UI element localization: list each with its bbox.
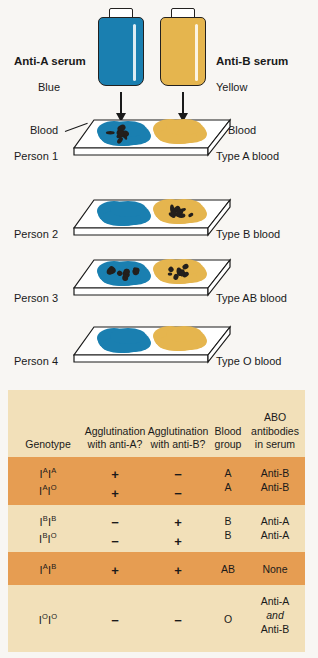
person-label: Person 2	[14, 228, 58, 240]
anti-a-serum-color-label: Blue	[38, 81, 60, 93]
blood-callout-left: Blood	[30, 124, 58, 136]
cell-abo-antibodies: Anti-BAnti-B	[246, 466, 304, 494]
anti-b-serum-label: Anti-B serum	[216, 55, 288, 68]
bottle-highlight	[133, 24, 136, 81]
anti-b-blood-drop	[153, 119, 207, 144]
cell-agglutination-anti-a: +	[84, 562, 146, 581]
blood-test-slide	[72, 325, 232, 369]
cell-blood-group: AA	[208, 466, 248, 494]
blood-test-slide	[72, 258, 232, 302]
anti-a-blood-drop	[97, 261, 151, 286]
cell-genotype: IBIBIBIO	[12, 514, 84, 547]
anti-b-serum-bottle-icon	[160, 8, 206, 86]
cell-agglutination-anti-b: −−	[146, 466, 210, 504]
blood-type-label: Type B blood	[216, 228, 280, 240]
cell-abo-antibodies: Anti-AAnti-A	[246, 514, 304, 542]
cell-blood-group: AB	[208, 562, 248, 576]
anti-a-serum-bottle-icon	[98, 8, 144, 86]
table-row: IOIO−−OAnti-AandAnti-B	[8, 586, 305, 652]
cell-genotype: IAIB	[12, 562, 84, 579]
anti-b-serum-color-label: Yellow	[216, 81, 247, 93]
blood-test-slide	[72, 198, 232, 242]
blood-typing-figure: Anti-A serum Blue Anti-B serum Yellow Bl…	[0, 0, 318, 658]
header-agglutination-anti-b: Agglutinationwith anti-B?	[146, 425, 210, 452]
cell-abo-antibodies: None	[246, 562, 304, 576]
blood-type-label: Type A blood	[216, 150, 279, 162]
blood-type-label: Type AB blood	[216, 292, 287, 304]
cell-genotype: IOIO	[12, 612, 84, 629]
cell-agglutination-anti-b: +	[146, 562, 210, 581]
cell-agglutination-anti-b: ++	[146, 514, 210, 552]
header-blood-group: Bloodgroup	[208, 425, 248, 452]
person-label: Person 3	[14, 292, 58, 304]
abo-genotype-table: Genotype Agglutinationwith anti-A? Agglu…	[8, 390, 305, 652]
anti-a-blood-drop	[97, 201, 151, 226]
anti-a-blood-drop	[97, 121, 151, 146]
anti-b-blood-drop	[153, 326, 207, 351]
cell-agglutination-anti-b: −	[146, 612, 210, 631]
cell-abo-antibodies: Anti-AandAnti-B	[246, 594, 304, 637]
arrow-shaft	[182, 92, 184, 115]
cell-genotype: IAIAIAIO	[12, 466, 84, 499]
header-abo-antibodies: ABOantibodiesin serum	[246, 411, 304, 452]
cell-agglutination-anti-a: −	[84, 612, 146, 631]
cell-agglutination-anti-a: ++	[84, 466, 146, 504]
table-header-row: Genotype Agglutinationwith anti-A? Agglu…	[8, 390, 305, 456]
arrow-shaft	[120, 92, 122, 115]
blood-type-label: Type O blood	[216, 355, 281, 367]
cell-agglutination-anti-a: −−	[84, 514, 146, 552]
anti-b-blood-drop	[153, 199, 207, 224]
anti-a-serum-label: Anti-A serum	[14, 55, 86, 68]
bottle-body	[98, 17, 144, 86]
table-row: IBIBIBIO−−++BBAnti-AAnti-A	[8, 506, 305, 552]
cell-blood-group: O	[208, 612, 248, 626]
table-row: IAIAIAIO++−−AAAnti-BAnti-B	[8, 457, 305, 505]
header-genotype: Genotype	[12, 438, 84, 452]
anti-a-blood-drop	[97, 328, 151, 353]
blood-test-slide	[72, 118, 232, 162]
table-row: IAIB++ABNone	[8, 552, 305, 585]
bottle-highlight	[195, 24, 198, 81]
header-agglutination-anti-a: Agglutinationwith anti-A?	[84, 425, 146, 452]
cell-blood-group: BB	[208, 514, 248, 542]
person-label: Person 4	[14, 355, 58, 367]
bottle-body	[160, 17, 206, 86]
anti-b-blood-drop	[153, 259, 207, 284]
blood-callout-right: Blood	[228, 124, 256, 136]
person-label: Person 1	[14, 150, 58, 162]
